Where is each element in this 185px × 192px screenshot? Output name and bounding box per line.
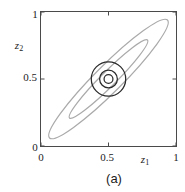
y-tick-label-1: 1 (32, 9, 38, 20)
black-circle (104, 75, 113, 84)
x-tick-label-0: 0 (38, 152, 44, 163)
x-axis-label-subscript: 1 (145, 158, 149, 167)
y-tick-label-05: 0.5 (23, 72, 37, 83)
figure-caption: (a) (106, 172, 122, 185)
gray-ellipse (41, 12, 176, 146)
y-axis-label-subscript: 2 (19, 44, 23, 53)
figure-panel: 1 0.5 0 z2 0 0.5 1 z1 (a) (0, 0, 185, 192)
plot-area (40, 11, 177, 147)
x-tick-label-1: 1 (173, 152, 179, 163)
gray-ellipse (64, 35, 152, 123)
y-axis-label: z2 (15, 40, 23, 53)
contour-svg (41, 12, 176, 146)
y-tick-label-0: 0 (32, 142, 38, 153)
x-axis-label: z1 (141, 154, 149, 167)
x-tick-label-05: 0.5 (100, 152, 114, 163)
black-circle (91, 62, 125, 96)
black-circle (100, 70, 118, 88)
